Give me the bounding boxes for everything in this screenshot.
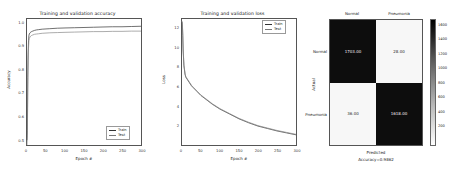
cm-cell-normal-normal: 1703.00 xyxy=(330,20,376,83)
cm-colorbar-tick-1: 1400 xyxy=(438,37,447,41)
loss-xtick-5: 250 xyxy=(274,149,281,153)
legend-line-swatch-train xyxy=(109,130,116,131)
loss-legend-test: Test xyxy=(265,28,283,32)
accuracy-xtick-3: 150 xyxy=(80,149,87,153)
cm-colorbar-tick-0: 1600 xyxy=(438,23,447,27)
cm-colorbar xyxy=(430,19,436,146)
cm-cell-pneumonia-normal: 36.00 xyxy=(330,83,376,146)
loss-ytick-2: 8 xyxy=(167,65,179,69)
accuracy-legend-test: Test xyxy=(109,134,127,138)
loss-ytick-3: 6 xyxy=(167,85,179,89)
accuracy-ytick-3: 0.7 xyxy=(12,91,24,95)
cm-column-label-normal: Normal xyxy=(345,11,359,16)
loss-ytick-0: 12 xyxy=(167,26,179,30)
accuracy-legend-train-label: Train xyxy=(118,129,127,133)
accuracy-yaxis-label: Accuracy xyxy=(6,60,11,100)
legend-line-swatch-train xyxy=(265,24,272,25)
loss-legend-train-label: Train xyxy=(274,23,283,27)
cm-colorbar-tick-6: 400 xyxy=(438,110,445,114)
cm-colorbar-tick-2: 1200 xyxy=(438,52,447,56)
cm-accuracy-footnote: Accuracy=0.9862 xyxy=(329,157,423,162)
accuracy-xtick-6: 300 xyxy=(138,149,145,153)
panel-confusion-matrix: Normal Pneumonia 1703.00 28.00 36.00 161… xyxy=(310,0,463,171)
loss-chart-title: Training and validation loss xyxy=(155,11,310,16)
loss-plot-lines xyxy=(182,19,296,145)
accuracy-ytick-2: 0.8 xyxy=(12,68,24,72)
cm-row-label-normal: Normal xyxy=(307,49,327,54)
accuracy-xtick-0: 0 xyxy=(25,149,27,153)
cm-colorbar-tick-3: 1000 xyxy=(438,66,447,70)
cm-value-fn: 36.00 xyxy=(347,111,358,116)
accuracy-ytick-5: 0.5 xyxy=(12,139,24,143)
legend-line-swatch-test xyxy=(265,29,272,30)
accuracy-legend: Train Test xyxy=(106,126,130,140)
accuracy-xtick-4: 200 xyxy=(100,149,107,153)
figure-root: Training and validation accuracy 1.0 0.9… xyxy=(0,0,463,171)
cm-value-fp: 28.00 xyxy=(393,49,404,54)
loss-legend: Train Test xyxy=(262,20,286,34)
loss-ytick-1: 10 xyxy=(167,46,179,50)
loss-xaxis-label: Epoch # xyxy=(181,156,297,161)
accuracy-xaxis-label: Epoch # xyxy=(26,156,142,161)
loss-legend-test-label: Test xyxy=(274,28,281,32)
loss-xtick-4: 200 xyxy=(255,149,262,153)
accuracy-xtick-5: 250 xyxy=(119,149,126,153)
cm-row-label-pneumonia: Pneumonia xyxy=(303,112,327,117)
accuracy-ytick-4: 0.6 xyxy=(12,115,24,119)
accuracy-xtick-1: 50 xyxy=(43,149,48,153)
loss-yaxis-label: Loss xyxy=(161,60,166,100)
cm-cell-pneumonia-pneumonia: 1618.00 xyxy=(376,83,422,146)
cm-column-label-pneumonia: Pneumonia xyxy=(388,11,410,16)
loss-xtick-1: 50 xyxy=(198,149,203,153)
accuracy-chart-title: Training and validation accuracy xyxy=(0,11,155,16)
panel-accuracy: Training and validation accuracy 1.0 0.9… xyxy=(0,0,155,171)
loss-axes xyxy=(181,18,297,146)
loss-xtick-0: 0 xyxy=(180,149,182,153)
panel-loss: Training and validation loss 12 10 8 6 4… xyxy=(155,0,310,171)
accuracy-legend-test-label: Test xyxy=(118,134,125,138)
accuracy-ytick-0: 1.0 xyxy=(12,21,24,25)
cm-xaxis-label: Predicted xyxy=(329,150,423,155)
loss-xtick-2: 100 xyxy=(216,149,223,153)
cm-grid: 1703.00 28.00 36.00 1618.00 xyxy=(329,19,423,146)
accuracy-ytick-1: 0.9 xyxy=(12,44,24,48)
loss-xtick-6: 300 xyxy=(293,149,300,153)
loss-xtick-3: 150 xyxy=(235,149,242,153)
accuracy-legend-train: Train xyxy=(109,129,127,133)
cm-value-tn: 1703.00 xyxy=(345,49,362,54)
cm-colorbar-tick-4: 800 xyxy=(438,81,445,85)
cm-cell-normal-pneumonia: 28.00 xyxy=(376,20,422,83)
accuracy-xtick-2: 100 xyxy=(61,149,68,153)
cm-value-tp: 1618.00 xyxy=(391,111,408,116)
cm-colorbar-tick-5: 600 xyxy=(438,95,445,99)
loss-legend-train: Train xyxy=(265,23,283,27)
cm-yaxis-label: Actual xyxy=(311,65,316,105)
legend-line-swatch-test xyxy=(109,135,116,136)
loss-ytick-4: 4 xyxy=(167,105,179,109)
cm-colorbar-tick-7: 200 xyxy=(438,124,445,128)
loss-ytick-5: 2 xyxy=(167,124,179,128)
